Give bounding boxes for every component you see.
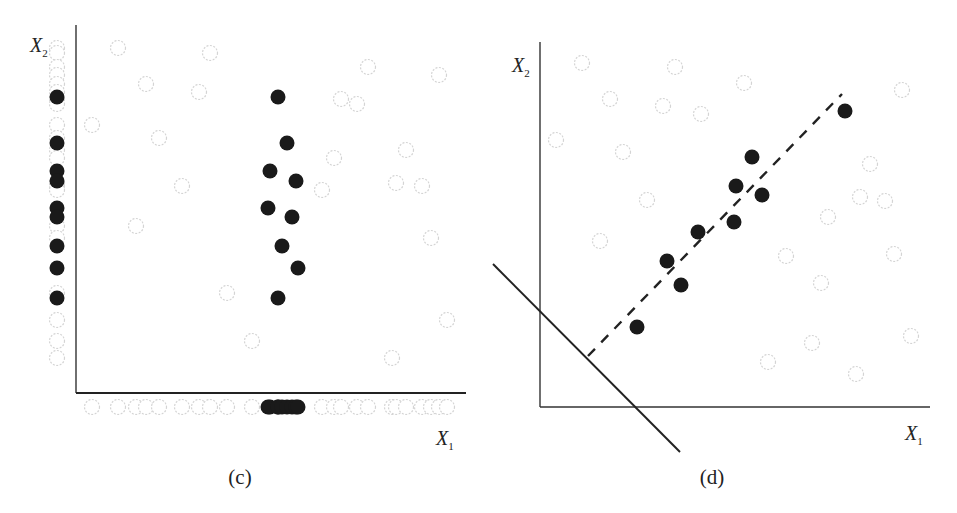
light-data-point (415, 179, 430, 194)
light-data-point (152, 131, 167, 146)
light-data-point (575, 56, 590, 71)
light-data-point (593, 234, 608, 249)
x1-projected-light-point (399, 400, 414, 415)
light-data-point (220, 286, 235, 301)
dark-data-point (755, 188, 770, 203)
light-data-point (853, 190, 868, 205)
x2-projected-dark-point (50, 291, 65, 306)
light-data-point (139, 77, 154, 92)
dark-data-point (691, 225, 706, 240)
dark-data-point (263, 164, 278, 179)
panel-d-x-axis-label: X1 (904, 422, 923, 447)
light-data-point (694, 107, 709, 122)
x2-projected-light-point (50, 46, 65, 61)
panel-c-y-axis-label: X2 (29, 34, 48, 59)
panel-c-x2-projection (50, 41, 65, 366)
dark-data-point (838, 104, 853, 119)
light-data-point (361, 60, 376, 75)
panel-d-y-axis-label: X2 (511, 54, 530, 79)
panel-c-caption: (c) (228, 465, 251, 489)
x1-projected-light-point (203, 400, 218, 415)
x1-projected-light-point (111, 400, 126, 415)
light-data-point (385, 351, 400, 366)
light-data-point (432, 68, 447, 83)
light-data-point (85, 118, 100, 133)
light-data-point (315, 183, 330, 198)
light-data-point (192, 85, 207, 100)
x2-projected-dark-point (50, 90, 65, 105)
light-data-point (656, 99, 671, 114)
panel-d-dashed-direction-line (588, 94, 842, 356)
dark-data-point (729, 179, 744, 194)
light-data-point (111, 41, 126, 56)
light-data-point (399, 143, 414, 158)
x1-projected-light-point (245, 400, 260, 415)
dark-data-point (674, 278, 689, 293)
dark-data-point (630, 320, 645, 335)
x1-projected-light-point (152, 400, 167, 415)
light-data-point (616, 145, 631, 160)
x2-projected-dark-point (50, 136, 65, 151)
dark-data-point (727, 215, 742, 230)
light-data-point (334, 92, 349, 107)
light-data-point (887, 247, 902, 262)
light-data-point (175, 179, 190, 194)
light-data-point (805, 336, 820, 351)
panel-d-projection-line (493, 264, 680, 452)
light-data-point (863, 157, 878, 172)
x1-projected-light-point (220, 400, 235, 415)
x2-projected-light-point (50, 151, 65, 166)
dark-data-point (291, 261, 306, 276)
light-data-point (779, 249, 794, 264)
dark-data-point (275, 239, 290, 254)
panel-c-dark-points (261, 90, 306, 306)
x1-projected-light-point (85, 400, 100, 415)
panel-c: X2 X1 (c) (29, 25, 466, 489)
light-data-point (904, 329, 919, 344)
light-data-point (603, 92, 618, 107)
light-data-point (668, 60, 683, 75)
x2-projected-dark-point (50, 239, 65, 254)
panel-d-caption: (d) (700, 465, 725, 489)
light-data-point (350, 97, 365, 112)
light-data-point (640, 193, 655, 208)
dark-data-point (261, 201, 276, 216)
dark-data-point (271, 291, 286, 306)
panel-d-dark-points (630, 104, 853, 335)
x2-projected-light-point (50, 351, 65, 366)
figure-canvas: X2 X1 (c) X2 X1 (d) (0, 0, 957, 513)
panel-d: X2 X1 (d) (493, 42, 930, 489)
light-data-point (878, 194, 893, 209)
dark-data-point (289, 174, 304, 189)
light-data-point (129, 219, 144, 234)
x2-projected-light-point (50, 313, 65, 328)
light-data-point (327, 151, 342, 166)
x2-projected-dark-point (50, 174, 65, 189)
light-data-point (389, 176, 404, 191)
panel-c-x1-projection (85, 400, 455, 415)
x1-projected-light-point (334, 400, 349, 415)
x2-projected-light-point (50, 334, 65, 349)
light-data-point (821, 210, 836, 225)
dark-data-point (280, 136, 295, 151)
x1-projected-light-point (361, 400, 376, 415)
light-data-point (814, 276, 829, 291)
light-data-point (440, 313, 455, 328)
light-data-point (203, 46, 218, 61)
x1-projected-light-point (175, 400, 190, 415)
dark-data-point (745, 150, 760, 165)
light-data-point (895, 83, 910, 98)
light-data-point (761, 355, 776, 370)
light-data-point (549, 133, 564, 148)
x1-projected-light-point (440, 400, 455, 415)
dark-data-point (285, 210, 300, 225)
x1-projected-dark-point (291, 400, 306, 415)
light-data-point (849, 367, 864, 382)
x2-projected-dark-point (50, 261, 65, 276)
x2-projected-dark-point (50, 210, 65, 225)
panel-c-x-axis-label: X1 (435, 427, 454, 452)
light-data-point (424, 231, 439, 246)
dark-data-point (660, 254, 675, 269)
dark-data-point (271, 90, 286, 105)
x1-projected-light-point (139, 400, 154, 415)
